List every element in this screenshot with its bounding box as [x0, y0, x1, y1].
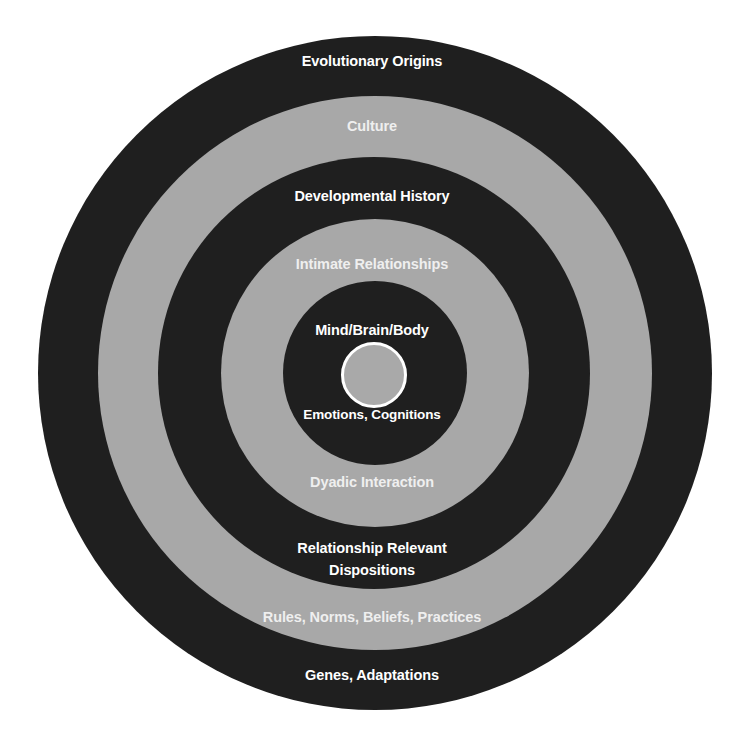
label-culture: Culture [0, 117, 744, 135]
label-intimate-relationships: Intimate Relationships [0, 255, 744, 273]
label-emotions-cognitions: Emotions, Cognitions [0, 406, 744, 424]
label-mind-brain-body: Mind/Brain/Body [0, 321, 744, 339]
label-dyadic-interaction: Dyadic Interaction [0, 473, 744, 491]
label-genes-adaptations: Genes, Adaptations [0, 666, 744, 684]
label-dispositions: Dispositions [0, 561, 744, 579]
label-developmental-history: Developmental History [0, 187, 744, 205]
label-evolutionary-origins: Evolutionary Origins [0, 52, 744, 70]
core-circle [341, 342, 407, 408]
label-rules-norms-beliefs-practices: Rules, Norms, Beliefs, Practices [0, 608, 744, 626]
label-relationship-relevant: Relationship Relevant [0, 539, 744, 557]
concentric-circle-diagram: Evolutionary Origins Culture Development… [0, 0, 744, 736]
